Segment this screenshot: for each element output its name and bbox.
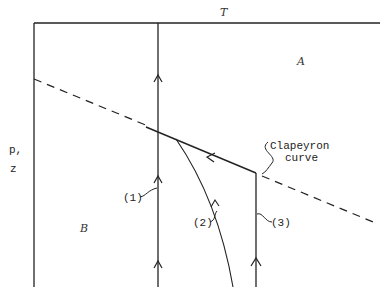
phase-diagram: T A B p, z Clapeyron curve (1) (2) (3) bbox=[0, 0, 386, 298]
region-label-b: B bbox=[79, 222, 88, 235]
path-2-curve bbox=[176, 139, 233, 287]
clapeyron-label-line2: curve bbox=[285, 152, 318, 164]
clapeyron-dashed-left bbox=[34, 79, 148, 126]
arrow-up-icon bbox=[211, 200, 219, 207]
region-label-a: A bbox=[296, 55, 305, 68]
path-label-2: (2) bbox=[193, 217, 213, 229]
axis-label-depth: z bbox=[10, 163, 17, 175]
axis-label-pressure: p, bbox=[9, 144, 22, 156]
axis-label-temperature: T bbox=[220, 6, 229, 19]
path-label-1: (1) bbox=[123, 192, 143, 204]
path-3-leader bbox=[257, 214, 272, 222]
arrow-left-icon bbox=[207, 153, 215, 162]
path-label-3: (3) bbox=[271, 217, 291, 229]
clapeyron-label-line1: Clapeyron bbox=[270, 140, 329, 152]
clapeyron-solid-segment bbox=[146, 127, 256, 173]
